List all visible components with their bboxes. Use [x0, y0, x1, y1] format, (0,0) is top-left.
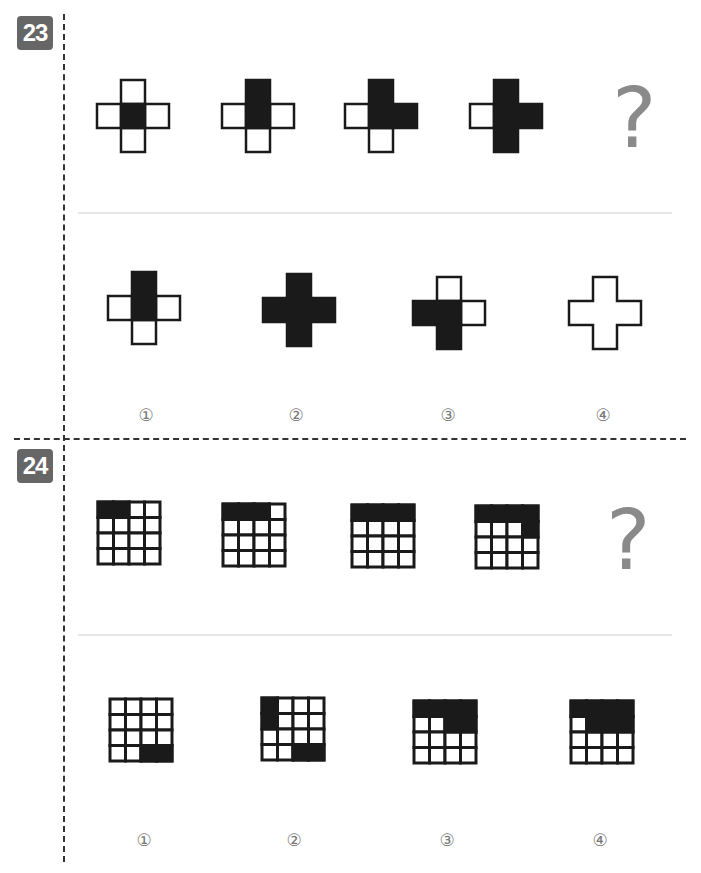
- q24-option-figure-3: [412, 699, 478, 769]
- q24-option-figure-2: [260, 696, 326, 766]
- question-mark-23: ?: [612, 76, 657, 160]
- q23-option-label-3: ③: [433, 405, 463, 425]
- question-number-badge-24: 24: [17, 449, 53, 483]
- q24-sequence-figure-3: [350, 503, 416, 573]
- horizontal-divider: [14, 438, 686, 440]
- q24-sequence-figure-4: [474, 504, 540, 574]
- q23-option-label-1: ①: [131, 405, 161, 425]
- q24-option-label-2: ②: [279, 830, 309, 850]
- q24-separator: [78, 634, 672, 636]
- q23-sequence-figure-4: [468, 78, 544, 158]
- q23-separator: [78, 212, 672, 214]
- q24-option-figure-1: [108, 697, 174, 767]
- q23-option-figure-4: [567, 275, 643, 355]
- q23-option-figure-3: [411, 275, 487, 355]
- q24-sequence-figure-1: [96, 500, 162, 570]
- q23-sequence-figure-1: [95, 78, 171, 158]
- q23-sequence-figure-3: [343, 78, 419, 158]
- q24-option-label-4: ④: [585, 830, 615, 850]
- q23-option-figure-1: [106, 270, 182, 350]
- q23-option-figure-2: [261, 272, 337, 352]
- q23-option-label-4: ④: [588, 405, 618, 425]
- question-number-badge-23: 23: [17, 16, 53, 50]
- q24-sequence-figure-2: [221, 502, 287, 572]
- question-mark-24: ?: [606, 498, 651, 582]
- q24-option-figure-4: [569, 699, 635, 769]
- q24-option-label-3: ③: [432, 830, 462, 850]
- q24-option-label-1: ①: [129, 830, 159, 850]
- q23-sequence-figure-2: [220, 78, 296, 158]
- q23-option-label-2: ②: [281, 405, 311, 425]
